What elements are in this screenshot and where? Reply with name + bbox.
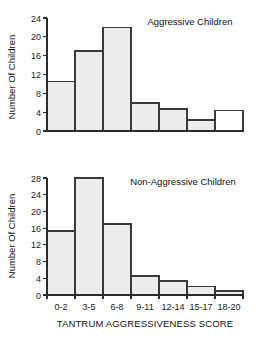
- x-tick-label: 9-11: [136, 302, 153, 312]
- y-tick-label: 0: [36, 291, 41, 301]
- bar-6-8: [103, 27, 131, 131]
- y-tick-label: 0: [36, 127, 41, 137]
- panel-title-top: Aggressive Children: [147, 16, 232, 27]
- chart-non-aggressive-children: Number Of Children 0 4 8 12 16 20 24 28: [0, 160, 257, 339]
- x-axis-title: TANTRUM AGGRESSIVENESS SCORE: [57, 318, 234, 329]
- bar-15-17: [187, 287, 215, 295]
- x-tick-label: 12-14: [161, 302, 184, 312]
- x-tick-label: 18-20: [217, 302, 240, 312]
- bar-18-20: [215, 110, 243, 131]
- y-axis-ticks-bottom: 0 4 8 12 16 20 24 28: [31, 174, 41, 301]
- bar-3-5: [75, 51, 103, 131]
- y-tick-label: 4: [36, 108, 41, 118]
- bar-0-2: [47, 82, 75, 131]
- bar-0-2: [47, 231, 75, 295]
- y-tick-label: 8: [36, 257, 41, 267]
- bar-15-17: [187, 120, 215, 131]
- y-axis-ticks-top: 0 4 8 12 16 20 24: [31, 14, 41, 137]
- x-axis-ticks-bottom: 0-2 3-5 6-8 9-11 12-14 15-17 18-20: [54, 302, 240, 312]
- panel-title-bottom: Non-Aggressive Children: [130, 176, 236, 187]
- bars-top: [47, 27, 243, 131]
- bar-9-11: [131, 276, 159, 295]
- bars-bottom: [47, 178, 243, 295]
- x-tick-label: 15-17: [189, 302, 212, 312]
- y-tick-label: 12: [31, 240, 41, 250]
- bar-12-14: [159, 281, 187, 295]
- bar-6-8: [103, 224, 131, 295]
- y-tick-label: 24: [31, 14, 41, 24]
- y-axis-title-top: Number Of Children: [6, 35, 17, 119]
- y-tick-label: 4: [36, 274, 41, 284]
- y-axis-title-bottom: Number Of Children: [6, 194, 17, 278]
- y-tick-label: 12: [31, 70, 41, 80]
- x-tick-label: 0-2: [54, 302, 67, 312]
- y-tick-label: 8: [36, 89, 41, 99]
- bar-9-11: [131, 103, 159, 131]
- bar-12-14: [159, 109, 187, 131]
- chart-aggressive-children: Number Of Children 0 4 8 12 16 20 24: [0, 0, 257, 160]
- x-tick-label: 6-8: [110, 302, 123, 312]
- panel-non-aggressive-children: Number Of Children 0 4 8 12 16 20 24 28: [0, 160, 257, 339]
- panel-aggressive-children: Number Of Children 0 4 8 12 16 20 24: [0, 0, 257, 160]
- y-tick-label: 28: [31, 174, 41, 184]
- histogram-figure: Number Of Children 0 4 8 12 16 20 24: [0, 0, 257, 339]
- y-tick-label: 16: [31, 51, 41, 61]
- y-tick-label: 20: [31, 32, 41, 42]
- bar-3-5: [75, 178, 103, 295]
- y-tick-label: 16: [31, 224, 41, 234]
- y-tick-label: 24: [31, 190, 41, 200]
- x-tick-label: 3-5: [82, 302, 95, 312]
- y-tick-label: 20: [31, 207, 41, 217]
